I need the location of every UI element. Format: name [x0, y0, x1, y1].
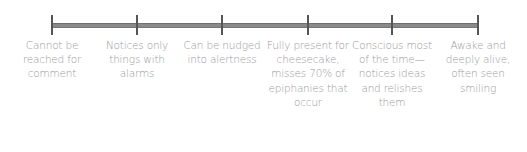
scale-label-4: Fully present for cheesecake, misses 70%… — [264, 38, 352, 109]
tick-5 — [391, 15, 393, 35]
tick-3 — [221, 15, 223, 35]
scale-label-6: Awake and deeply alive, often seen smili… — [435, 38, 521, 95]
scale-label-2: Notices only things with alarms — [94, 38, 180, 81]
scale-label-5: Conscious most of the time—notices ideas… — [351, 38, 433, 109]
scale-label-1: Cannot be reached for comment — [9, 38, 95, 81]
tick-2 — [136, 15, 138, 35]
tick-4 — [307, 15, 309, 35]
tick-6 — [477, 15, 479, 35]
scale-label-3: Can be nudged into alertness — [179, 38, 265, 66]
scale-line — [52, 23, 478, 28]
tick-1 — [51, 15, 53, 35]
